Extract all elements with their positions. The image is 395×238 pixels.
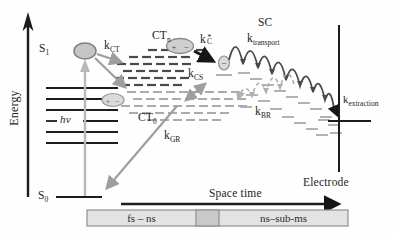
kgr-label: kGR: [164, 130, 180, 142]
kc-label: k*C: [200, 34, 212, 46]
electrode-label: Electrode: [303, 177, 349, 189]
kc-dissociation-arrow: [194, 51, 213, 61]
ct0-label: CT0: [138, 112, 157, 124]
kextraction-label: kextraction: [343, 95, 378, 106]
space-time-label: Space time: [209, 188, 262, 200]
ctn-minus-sign: −: [183, 42, 188, 52]
ct0-minus-sign: −: [115, 96, 120, 106]
s0-label: S0: [38, 190, 48, 202]
ct0-pair-ellipse: + −: [102, 94, 124, 107]
kct-label: kCT: [104, 40, 120, 52]
energy-axis: [23, 12, 34, 197]
hv-label: hν: [60, 114, 71, 125]
ct0-plus-sign: +: [106, 96, 111, 106]
ktransport-label: ktransport: [247, 33, 280, 45]
kcs-label: kCS: [188, 68, 203, 80]
ctn-plus-sign: +: [171, 42, 176, 52]
sc-site-dashes: [238, 73, 342, 135]
energy-axis-label: Energy: [8, 90, 20, 126]
timescale-slow-label: ns–sub-ms: [219, 213, 348, 224]
timescale-fast-label: fs – ns: [87, 213, 196, 224]
hv-arrow: [80, 59, 90, 196]
electron-minus-sign: −: [221, 58, 227, 69]
kextraction-arrow: [334, 108, 337, 115]
kct-arrows: [95, 54, 125, 87]
sc-label: SC: [258, 17, 272, 29]
ctn-label: CTn: [152, 30, 171, 42]
energy-diagram-figure: + − + − −: [0, 0, 395, 238]
exciton-ellipse: [74, 43, 96, 59]
kcs-double-arrow: [186, 84, 205, 100]
kbr-label: kBR: [255, 106, 271, 118]
s1-label: S1: [39, 43, 49, 55]
